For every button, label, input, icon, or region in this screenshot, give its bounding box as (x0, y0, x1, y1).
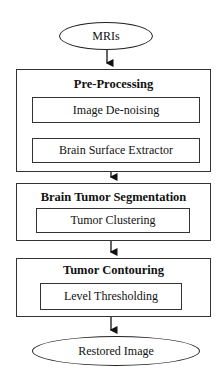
step-label: Level Thresholding (64, 289, 158, 304)
stage-title-segmentation: Brain Tumor Segmentation (17, 190, 210, 205)
output-node-restored-image: Restored Image (32, 336, 200, 366)
step-label: Image De-noising (73, 103, 159, 118)
step-image-denoising: Image De-noising (32, 97, 200, 123)
stage-title-pre-processing: Pre-Processing (17, 77, 210, 92)
step-label: Tumor Clustering (70, 213, 155, 228)
input-node-mris: MRIs (59, 22, 153, 50)
stage-title-contouring: Tumor Contouring (17, 263, 210, 278)
step-level-thresholding: Level Thresholding (40, 283, 182, 310)
step-label: Brain Surface Extractor (59, 143, 173, 158)
output-label: Restored Image (78, 344, 154, 359)
step-tumor-clustering: Tumor Clustering (36, 208, 190, 233)
step-brain-surface-extractor: Brain Surface Extractor (32, 138, 200, 163)
input-label: MRIs (92, 29, 119, 44)
